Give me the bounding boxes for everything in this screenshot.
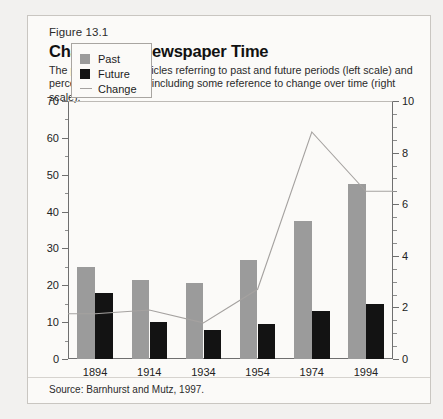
y2-tick-minor-9.5 — [393, 114, 397, 115]
y-axis-right-label-10: 10 — [402, 95, 414, 107]
y-axis-left-label-10: 10 — [47, 316, 59, 328]
y2-tick-minor-1 — [393, 333, 397, 334]
figure-card: Figure 13.1 Changes in Newspaper Time Th… — [27, 15, 431, 404]
y-axis-right-label-4: 4 — [402, 250, 408, 262]
y2-tick-minor-7 — [393, 178, 397, 179]
y2-tick-minor-7.5 — [393, 166, 397, 167]
y2-tick-major-2 — [393, 307, 399, 308]
y2-tick-minor-3.5 — [393, 269, 397, 270]
y-tick-major-0 — [62, 359, 68, 360]
y2-tick-minor-9 — [393, 127, 397, 128]
y2-tick-minor-0.5 — [393, 346, 397, 347]
y2-tick-minor-3 — [393, 282, 397, 283]
legend-swatch-past-icon — [80, 54, 90, 64]
y2-tick-minor-1.5 — [393, 320, 397, 321]
y-axis-left-label-0: 0 — [53, 353, 59, 365]
legend-label-past: Past — [98, 53, 120, 65]
y2-tick-minor-2.5 — [393, 295, 397, 296]
legend-label-change: Change — [98, 83, 137, 95]
change-line-series — [68, 101, 393, 359]
legend-swatch-future-icon — [80, 69, 90, 79]
y-axis-left-label-40: 40 — [47, 206, 59, 218]
legend-swatch-change-icon — [80, 88, 92, 89]
y-axis-right-label-6: 6 — [402, 198, 408, 210]
y2-tick-major-6 — [393, 204, 399, 205]
source-divider — [28, 377, 430, 378]
y2-tick-major-0 — [393, 359, 399, 360]
y2-tick-major-4 — [393, 256, 399, 257]
y2-tick-minor-4.5 — [393, 243, 397, 244]
chart-plot-area: 010203040506070 0246810 1894191419341954… — [68, 101, 393, 359]
y-axis-left-label-30: 30 — [47, 242, 59, 254]
y2-tick-major-10 — [393, 101, 399, 102]
y-axis-right-label-0: 0 — [402, 353, 408, 365]
y2-tick-minor-8.5 — [393, 140, 397, 141]
figure-number: Figure 13.1 — [49, 26, 108, 38]
y2-tick-minor-5.5 — [393, 217, 397, 218]
y-axis-left-label-20: 20 — [47, 279, 59, 291]
figure-source: Source: Barnhurst and Mutz, 1997. — [49, 384, 204, 395]
y2-tick-major-8 — [393, 153, 399, 154]
y-axis-left-label-70: 70 — [47, 95, 59, 107]
y2-tick-minor-5 — [393, 230, 397, 231]
chart-legend: PastFutureChange — [71, 43, 152, 98]
y-axis-left-label-50: 50 — [47, 169, 59, 181]
legend-label-future: Future — [98, 68, 130, 80]
y-axis-right-label-2: 2 — [402, 301, 408, 313]
y-axis-left-label-60: 60 — [47, 132, 59, 144]
y-axis-right-label-8: 8 — [402, 147, 408, 159]
y2-tick-minor-6.5 — [393, 191, 397, 192]
